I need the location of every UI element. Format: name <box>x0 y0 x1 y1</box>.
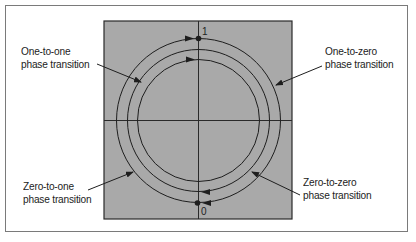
state-zero-label: 0 <box>201 207 207 217</box>
phase-circle-diagram <box>0 0 416 242</box>
zero-to-one-label: Zero-to-one phase transition <box>23 180 92 205</box>
zero-to-zero-label-line1: Zero-to-zero <box>303 176 372 189</box>
state-zero-dot <box>195 200 201 206</box>
zero-to-zero-label-line2: phase transition <box>303 189 372 202</box>
zero-to-zero-label: Zero-to-zero phase transition <box>303 176 372 201</box>
one-to-one-label: One-to-one phase transition <box>21 45 90 70</box>
one-to-one-label-line2: phase transition <box>21 58 90 71</box>
zero-to-one-label-line1: Zero-to-one <box>23 180 92 193</box>
one-to-zero-label-line2: phase transition <box>325 58 394 71</box>
state-one-label: 1 <box>202 27 208 37</box>
one-to-zero-label-line1: One-to-zero <box>325 45 394 58</box>
zero-to-one-label-line2: phase transition <box>23 193 92 206</box>
one-to-zero-label: One-to-zero phase transition <box>325 45 394 70</box>
one-to-one-label-line1: One-to-one <box>21 45 90 58</box>
state-one-dot <box>196 36 202 42</box>
